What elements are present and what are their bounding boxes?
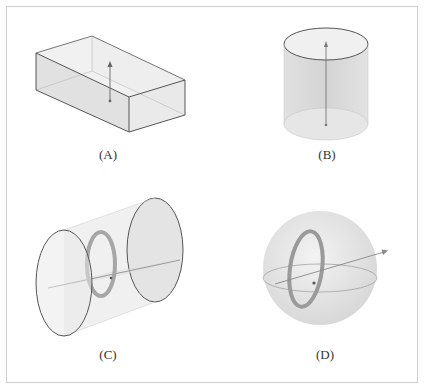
horizontal-cylinder-shape — [36, 198, 183, 336]
panel-label-d: (D) — [316, 347, 334, 363]
panel-label-b: (B) — [318, 147, 335, 163]
figure-canvas — [0, 0, 425, 388]
sphere-shape — [263, 211, 377, 325]
panel-label-a: (A) — [99, 147, 117, 163]
box-shape — [36, 36, 185, 132]
panel-label-c: (C) — [99, 347, 116, 363]
